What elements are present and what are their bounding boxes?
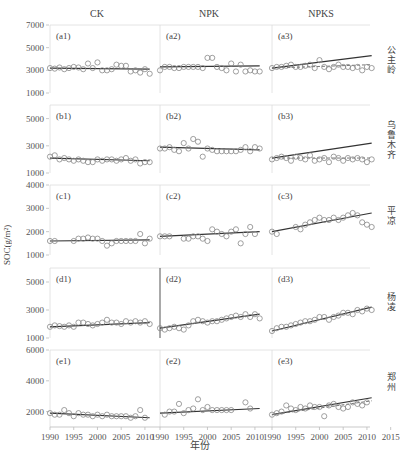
- panel-label: (e2): [166, 356, 181, 366]
- x-tick-label: 1990: [263, 432, 282, 442]
- observation-marker: [326, 160, 331, 165]
- site-label-gongzhuling: 公主岭: [384, 45, 398, 75]
- panel-e1: (e1): [47, 350, 149, 427]
- observation-marker: [360, 68, 365, 73]
- y-tick-label: 2000: [26, 407, 45, 417]
- simulated-trend-line: [160, 232, 260, 237]
- x-tick-label: 1995: [287, 432, 306, 442]
- observation-marker: [186, 323, 191, 328]
- simulated-trend-line: [272, 213, 372, 232]
- observation-marker: [364, 64, 369, 69]
- panel-b3: (b3): [269, 105, 374, 173]
- observation-marker: [62, 407, 67, 412]
- observation-marker: [303, 157, 308, 162]
- observation-marker: [288, 158, 293, 163]
- x-tick-label: 1990: [151, 432, 170, 442]
- observation-marker: [142, 241, 147, 246]
- x-tick-label: 1995: [65, 432, 84, 442]
- column-title-npk: NPK: [160, 8, 258, 19]
- panel-e3: (e3): [269, 350, 371, 427]
- observation-marker: [360, 403, 365, 408]
- x-tick-label: 2010: [358, 432, 377, 442]
- observation-marker: [350, 312, 355, 317]
- panel-a3: (a3): [269, 25, 374, 93]
- observation-marker: [104, 317, 109, 322]
- column-title-npks: NPKS: [272, 8, 370, 19]
- observation-marker: [147, 236, 152, 241]
- panel-label: (b2): [166, 111, 181, 121]
- panel-label: (d1): [56, 274, 71, 284]
- y-tick-label: 4000: [26, 180, 45, 190]
- observation-marker: [307, 153, 312, 158]
- observation-marker: [229, 61, 234, 66]
- observation-marker: [341, 158, 346, 163]
- y-tick-label: 6000: [26, 345, 45, 355]
- panel-label: (c2): [166, 191, 181, 201]
- y-axis-label: SOC(g/m²): [2, 200, 16, 290]
- observation-marker: [133, 414, 138, 419]
- y-tick-label: 5000: [26, 277, 45, 287]
- observation-marker: [71, 324, 76, 329]
- panel-label: (c3): [278, 191, 293, 201]
- observation-marker: [176, 401, 181, 406]
- observation-marker: [138, 231, 143, 236]
- observation-marker: [147, 321, 152, 326]
- y-tick-label: 1000: [26, 168, 45, 178]
- panel-d2: (d2): [157, 268, 262, 338]
- site-label-yangling: 杨凌: [384, 292, 398, 312]
- y-tick-label: 4000: [26, 376, 45, 386]
- column-title-ck: CK: [48, 8, 146, 19]
- x-tick-label: 2005: [112, 432, 131, 442]
- simulated-trend-line: [272, 307, 372, 331]
- panel-a1: (a1): [47, 25, 152, 93]
- panel-label: (d2): [166, 274, 181, 284]
- panel-b2: (b2): [157, 105, 262, 173]
- observation-marker: [195, 139, 200, 144]
- observation-marker: [224, 68, 229, 73]
- observation-marker: [298, 227, 303, 232]
- x-tick-label: 2005: [334, 432, 353, 442]
- panel-label: (a3): [278, 31, 293, 41]
- observation-marker: [369, 65, 374, 70]
- observation-marker: [243, 69, 248, 74]
- observation-marker: [138, 407, 143, 412]
- y-tick-label: 5000: [26, 43, 45, 53]
- observation-marker: [200, 407, 205, 412]
- observation-marker: [85, 61, 90, 66]
- y-tick-label: 3000: [26, 305, 45, 315]
- observation-marker: [52, 153, 57, 158]
- observation-marker: [248, 68, 253, 73]
- observation-marker: [176, 149, 181, 154]
- observation-marker: [66, 411, 71, 416]
- x-tick-label: 1990: [41, 432, 60, 442]
- observation-marker: [81, 67, 86, 72]
- observation-marker: [243, 400, 248, 405]
- observation-marker: [128, 69, 133, 74]
- panel-d1: (d1): [47, 268, 152, 338]
- y-tick-label: 3000: [26, 203, 45, 213]
- x-axis-label: 年份: [170, 437, 230, 452]
- y-tick-label: 5000: [26, 114, 45, 124]
- observation-marker: [133, 157, 138, 162]
- y-tick-label: 3000: [26, 141, 45, 151]
- x-tick-label: 2010: [246, 432, 265, 442]
- panel-b1: (b1): [47, 105, 152, 173]
- panel-label: (a2): [166, 31, 181, 41]
- panel-label: (b1): [56, 111, 71, 121]
- observation-marker: [248, 224, 253, 229]
- observation-marker: [369, 224, 374, 229]
- observation-marker: [147, 71, 152, 76]
- observation-marker: [181, 411, 186, 416]
- panel-label: (e1): [56, 356, 71, 366]
- observation-marker: [345, 404, 350, 409]
- panel-label: (a1): [56, 31, 71, 41]
- observation-marker: [205, 404, 210, 409]
- observation-marker: [238, 241, 243, 246]
- observation-marker: [233, 227, 238, 232]
- observation-marker: [138, 70, 143, 75]
- observation-marker: [224, 234, 229, 239]
- observation-marker: [369, 307, 374, 312]
- panel-label: (c1): [56, 191, 71, 201]
- observation-marker: [322, 414, 327, 419]
- observation-marker: [181, 140, 186, 145]
